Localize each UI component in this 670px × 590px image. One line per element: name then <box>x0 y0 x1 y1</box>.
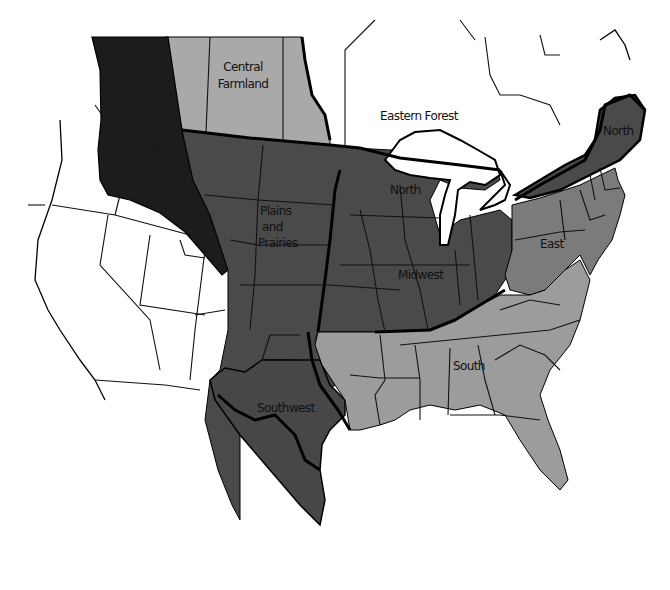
region-north-new-england <box>515 95 645 198</box>
label-central-farmland-1: Central <box>223 60 263 74</box>
label-northwest: Northwest <box>120 146 177 160</box>
label-north-lakes: North <box>390 183 421 197</box>
label-east: East <box>540 237 564 251</box>
label-midwest: Midwest <box>398 268 444 282</box>
canada-boundaries <box>345 20 630 148</box>
label-plains-2: and <box>262 220 283 234</box>
label-south: South <box>453 359 485 373</box>
label-plains-1: Plains <box>260 204 292 218</box>
label-north-new-england: North <box>603 124 634 138</box>
label-central-farmland-2: Farmland <box>218 77 269 91</box>
label-plains-3: Prairies <box>258 236 298 250</box>
label-southwest: Southwest <box>257 401 316 415</box>
label-eastern-forest: Eastern Forest <box>380 109 459 123</box>
north-america-region-map: Central Farmland Eastern Forest Northwes… <box>0 0 670 590</box>
